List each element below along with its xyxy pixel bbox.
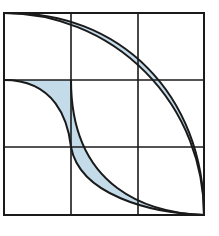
grid-figure [0, 0, 219, 236]
